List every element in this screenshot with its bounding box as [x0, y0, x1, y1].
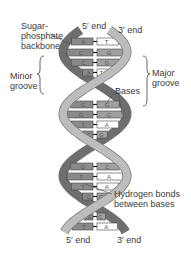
svg-text:C: C	[98, 214, 103, 220]
base-pair: CG	[71, 101, 119, 108]
minor-groove-label: Minor groove	[10, 71, 38, 91]
major-groove-label: Major groove	[152, 68, 180, 88]
svg-text:C: C	[81, 60, 86, 66]
major-groove-brace	[143, 56, 150, 106]
svg-text:T: T	[81, 184, 85, 190]
svg-text:C: C	[105, 164, 110, 170]
base-pair: TA	[71, 183, 118, 190]
three-prime-top-label: 3′ end	[118, 25, 142, 35]
five-prime-bottom-label: 5′ end	[66, 235, 90, 245]
svg-text:A: A	[105, 184, 109, 190]
svg-text:A: A	[105, 122, 109, 128]
minor-groove-brace	[37, 56, 44, 94]
svg-text:A: A	[87, 70, 91, 76]
backbone-label: Sugar- phosphate backbone	[21, 21, 63, 51]
svg-text:T: T	[79, 174, 83, 180]
svg-text:G: G	[107, 50, 112, 56]
base-pair: CG	[67, 49, 123, 56]
svg-text:C: C	[79, 50, 84, 56]
hydrogen-bonds-label: Hydrogen bonds between bases	[114, 189, 180, 209]
svg-text:A: A	[104, 224, 108, 230]
base-pair: GC	[67, 111, 123, 118]
svg-text:G: G	[105, 102, 110, 108]
svg-text:T: T	[81, 122, 85, 128]
svg-text:T: T	[82, 224, 86, 230]
three-prime-bottom-label: 3′ end	[117, 235, 141, 245]
svg-text:G: G	[105, 60, 110, 66]
svg-text:A: A	[81, 39, 85, 45]
base-pair: TA	[67, 173, 123, 180]
bases-label: Bases	[115, 86, 140, 96]
base-pair: GC	[71, 163, 119, 170]
base-pair: TA	[71, 121, 118, 128]
base-pair: CG	[71, 59, 118, 66]
svg-text:C: C	[81, 102, 86, 108]
five-prime-top-label: 5′ end	[82, 21, 106, 31]
svg-text:G: G	[99, 132, 104, 138]
base-pair: AT	[72, 38, 119, 45]
svg-text:C: C	[107, 112, 112, 118]
dna-diagram: ATCGCGATCGGCTACGGCTATACGGCTA Sugar- phos…	[0, 0, 191, 256]
base-pair: TA	[72, 223, 117, 230]
svg-text:T: T	[105, 39, 109, 45]
svg-text:C: C	[87, 194, 92, 200]
svg-text:G: G	[81, 164, 86, 170]
svg-text:A: A	[107, 174, 111, 180]
svg-text:G: G	[79, 112, 84, 118]
